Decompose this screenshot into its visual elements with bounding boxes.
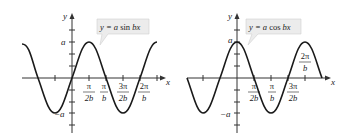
y-tick-label-neg-a: −a — [220, 109, 231, 119]
sine-equation-callout: y = a sin bx — [97, 19, 149, 45]
sine-graph: x y a −a π 2 — [22, 11, 170, 133]
x-axis-label: x — [165, 77, 170, 87]
svg-text:b: b — [102, 93, 106, 103]
x-tick-label-pi-over-b: π b — [100, 81, 108, 103]
svg-text:b: b — [270, 93, 274, 103]
y-axis-label: y — [227, 11, 232, 21]
svg-text:2π: 2π — [140, 81, 149, 91]
y-axis-arrow-icon — [235, 13, 240, 19]
x-tick-label-3pi-over-2b: 3π 2b — [287, 81, 299, 103]
y-axis-arrow-icon — [70, 13, 75, 19]
svg-text:π: π — [87, 81, 92, 91]
sine-equation-text: y = a sin bx — [99, 22, 140, 32]
svg-text:3π: 3π — [119, 81, 128, 91]
svg-text:π: π — [270, 81, 275, 91]
svg-text:2b: 2b — [289, 93, 298, 103]
svg-text:b: b — [142, 93, 146, 103]
trig-graphs: x y a −a π 2 — [0, 0, 354, 139]
svg-text:2b: 2b — [119, 93, 128, 103]
svg-text:2b: 2b — [85, 93, 94, 103]
svg-text:2π: 2π — [301, 51, 310, 61]
x-tick-label-pi-over-b: π b — [268, 81, 276, 103]
x-tick-label-3pi-over-2b: 3π 2b — [117, 81, 129, 103]
y-axis-label: y — [62, 11, 67, 21]
svg-text:π: π — [102, 81, 107, 91]
svg-text:b: b — [303, 63, 307, 73]
x-tick-label-2pi-over-b: 2π b — [299, 51, 311, 73]
x-tick-label-pi-over-2b: π 2b — [83, 81, 95, 103]
x-axis-label: x — [330, 77, 335, 87]
svg-text:2b: 2b — [250, 93, 259, 103]
svg-text:3π: 3π — [289, 81, 298, 91]
cosine-equation-callout: y = a cos bx — [246, 19, 301, 45]
y-tick-label-a: a — [61, 37, 66, 47]
y-tick-label-a: a — [228, 35, 233, 45]
x-tick-label-2pi-over-b: 2π b — [138, 81, 150, 103]
cosine-graph: x y a −a π 2b — [187, 11, 335, 133]
cosine-equation-text: y = a cos bx — [248, 22, 291, 32]
